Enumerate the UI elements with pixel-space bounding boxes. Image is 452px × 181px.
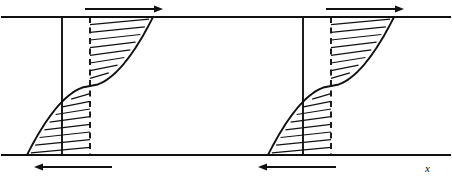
hatch-line	[90, 50, 130, 56]
hatch-line	[281, 132, 331, 138]
hatch-line	[331, 50, 371, 56]
hatch-line	[331, 19, 390, 25]
top-flow-arrow-left	[85, 6, 163, 13]
hatch-line	[90, 58, 124, 64]
hatch-line	[44, 124, 90, 129]
hatch-line	[297, 109, 331, 115]
bottom-flow-arrow-right	[258, 164, 336, 171]
arrow-head	[258, 164, 267, 171]
arrow-head	[34, 164, 43, 171]
hatch-line	[90, 65, 118, 71]
diagram-canvas: x	[0, 0, 452, 181]
hatch-line	[90, 42, 136, 48]
x-axis-label: x	[424, 162, 430, 174]
hatch-line	[31, 147, 90, 153]
arrow-head	[395, 6, 404, 13]
hatch-line	[71, 94, 90, 100]
hatch-line	[56, 109, 90, 115]
hatch-line	[272, 147, 331, 153]
velocity-profile-right	[268, 17, 394, 155]
top-flow-arrow-right	[326, 6, 404, 13]
hatch-line	[331, 73, 350, 79]
hatch-line	[62, 101, 90, 107]
hatch-line	[90, 27, 145, 32]
hatch-line	[303, 101, 331, 107]
hatch-line	[331, 65, 359, 71]
hatch-line	[312, 94, 331, 100]
hatch-line	[285, 124, 331, 129]
hatch-line	[90, 19, 149, 25]
bottom-flow-arrow-left	[34, 164, 112, 171]
velocity-profile-left	[27, 17, 153, 155]
hatch-line	[90, 35, 140, 41]
hatch-line	[331, 27, 386, 32]
hatch-line	[331, 58, 365, 64]
hatch-line	[50, 117, 90, 123]
hatch-line	[40, 132, 90, 138]
hatch-line	[291, 117, 331, 123]
hatch-line	[90, 73, 109, 79]
velocity-profile-figure: x	[0, 0, 452, 181]
arrow-head	[154, 6, 163, 13]
hatch-line	[331, 42, 377, 48]
hatch-line	[331, 35, 381, 41]
diagram-content	[2, 6, 450, 171]
